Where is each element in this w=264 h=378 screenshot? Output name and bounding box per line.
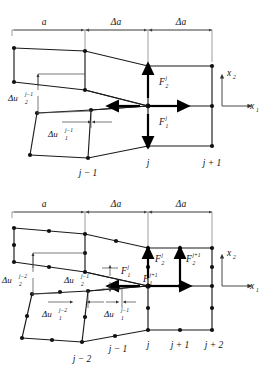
- bottom-force-F1jp1-label: F 1 j+1: [142, 272, 158, 287]
- svg-text:j−1: j−1: [24, 91, 33, 97]
- svg-text:j−1: j−1: [120, 307, 129, 313]
- bottom-coordinate-axes: [222, 258, 248, 286]
- bottom-axis-x2-label: x 2: [226, 248, 236, 260]
- svg-text:j: j: [165, 75, 168, 81]
- bottom-node-label-jp1: j + 1: [169, 340, 190, 350]
- top-mesh-nodes: [12, 46, 214, 160]
- top-dim-a-label: a: [42, 17, 47, 27]
- svg-text:j+1: j+1: [192, 252, 201, 258]
- bottom-dimension-line: [12, 212, 212, 246]
- top-panel: a Δa Δa j − 1 j j + 1 F 2 j F 1 j Δu 2 j…: [7, 17, 259, 178]
- svg-text:j−2: j−2: [58, 307, 67, 313]
- top-coordinate-axes: [222, 78, 248, 106]
- bottom-disp-u1-jm1-label: Δu 1 j−1: [103, 307, 129, 322]
- svg-text:j: j: [161, 252, 164, 258]
- svg-text:j: j: [127, 264, 130, 270]
- figure-canvas: a Δa Δa j − 1 j j + 1 F 2 j F 1 j Δu 2 j…: [0, 0, 264, 378]
- svg-text:Δu: Δu: [41, 309, 52, 319]
- svg-text:F: F: [120, 266, 127, 276]
- top-axis-x1-label: x 1: [249, 101, 259, 113]
- bottom-disp-u1-jm1-leader: [106, 289, 136, 308]
- bottom-dim-a-label: a: [42, 199, 47, 209]
- top-disp-u1-leader: [62, 110, 112, 128]
- svg-text:1: 1: [121, 315, 124, 321]
- svg-text:2: 2: [19, 281, 22, 287]
- top-dim-da1-label: Δa: [110, 17, 122, 27]
- svg-text:Δu: Δu: [7, 93, 18, 103]
- bottom-disp-u2-jm2-label: Δu 2 j−2: [1, 273, 27, 288]
- bottom-force-F2j-label: F 2 j: [154, 252, 165, 267]
- svg-text:1: 1: [59, 315, 62, 321]
- bottom-panel: a Δa Δa j − 2 j − 1 j j + 1 j + 2 F 2 j …: [1, 199, 259, 364]
- svg-text:x: x: [249, 101, 255, 111]
- bottom-disp-u2-jm1-label: Δu 2 j−1: [63, 273, 89, 288]
- bottom-force-F2jp1-label: F 2 j+1: [185, 252, 201, 267]
- svg-text:Δu: Δu: [1, 275, 12, 285]
- top-node-label-jm1: j − 1: [77, 168, 98, 178]
- svg-text:x: x: [226, 248, 232, 258]
- svg-text:j+1: j+1: [149, 272, 158, 278]
- svg-text:x: x: [249, 281, 255, 291]
- svg-text:1: 1: [256, 107, 259, 113]
- top-force-F1j-label: F 1 j: [158, 115, 169, 130]
- svg-text:2: 2: [166, 83, 169, 89]
- svg-text:j−2: j−2: [18, 273, 27, 279]
- bottom-node-label-jp2: j + 2: [203, 340, 224, 350]
- svg-text:Δu: Δu: [103, 309, 114, 319]
- top-disp-u1-label: Δu 1 j−1: [47, 127, 73, 142]
- top-disp-u2-label: Δu 2 j−1: [7, 91, 33, 106]
- bottom-node-label-jm2: j − 2: [71, 354, 92, 364]
- svg-text:1: 1: [166, 123, 169, 129]
- svg-text:j: j: [165, 115, 168, 121]
- svg-text:F: F: [158, 77, 165, 87]
- bottom-disp-u2-jm2-leader: [33, 253, 85, 294]
- svg-text:F: F: [158, 117, 165, 127]
- svg-text:Δu: Δu: [63, 275, 74, 285]
- top-disp-u2-leader: [38, 74, 91, 113]
- svg-text:2: 2: [233, 254, 236, 260]
- bottom-dim-da1-label: Δa: [110, 199, 122, 209]
- svg-text:Δu: Δu: [47, 129, 58, 139]
- crack-tip-mesh-figure: a Δa Δa j − 1 j j + 1 F 2 j F 1 j Δu 2 j…: [0, 0, 264, 378]
- top-dim-da2-label: Δa: [175, 17, 187, 27]
- svg-text:1: 1: [256, 287, 259, 293]
- svg-text:1: 1: [65, 135, 68, 141]
- svg-text:F: F: [142, 274, 149, 284]
- bottom-node-label-jm1: j − 1: [107, 344, 128, 354]
- svg-text:2: 2: [162, 260, 165, 266]
- svg-text:F: F: [154, 254, 161, 264]
- svg-text:2: 2: [233, 74, 236, 80]
- bottom-disp-u1-jm2-label: Δu 1 j−2: [41, 307, 67, 322]
- svg-text:F: F: [185, 254, 192, 264]
- svg-text:2: 2: [81, 281, 84, 287]
- svg-text:1: 1: [128, 272, 131, 278]
- svg-text:1: 1: [150, 280, 153, 286]
- top-node-label-j: j: [145, 158, 150, 168]
- bottom-upper-mesh: [14, 228, 212, 286]
- svg-text:2: 2: [193, 260, 196, 266]
- svg-text:2: 2: [25, 99, 28, 105]
- svg-text:x: x: [226, 68, 232, 78]
- top-force-F2j-label: F 2 j: [158, 75, 169, 90]
- top-axis-x2-label: x 2: [226, 68, 236, 80]
- bottom-mesh-nodes: [12, 226, 214, 344]
- bottom-axis-x1-label: x 1: [249, 281, 259, 293]
- top-node-label-jp1: j + 1: [201, 158, 222, 168]
- bottom-node-label-j: j: [145, 340, 150, 350]
- bottom-disp-u1-jm2-leader: [48, 291, 104, 308]
- bottom-force-F1j-label: F 1 j: [120, 264, 131, 279]
- svg-text:j−1: j−1: [80, 273, 89, 279]
- svg-text:j−1: j−1: [64, 127, 73, 133]
- bottom-dim-da2-label: Δa: [175, 199, 187, 209]
